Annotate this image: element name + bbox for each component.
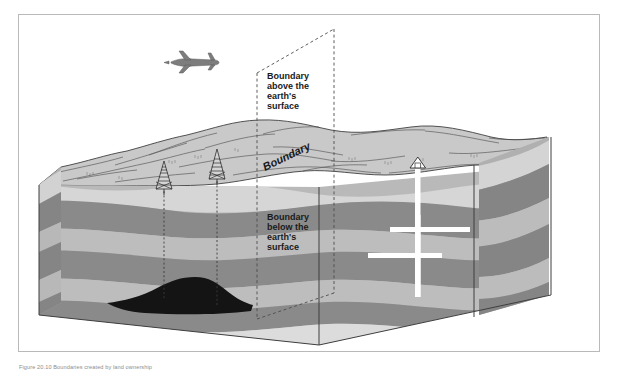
svg-text:earth's: earth's: [267, 91, 296, 101]
svg-text:above the: above the: [267, 81, 309, 91]
figure-frame: Boundary Boundary above the earth's surf…: [18, 14, 600, 352]
svg-text:earth's: earth's: [267, 232, 296, 242]
svg-text:Boundary: Boundary: [267, 212, 309, 222]
svg-text:below the: below the: [267, 222, 309, 232]
svg-text:surface: surface: [267, 101, 299, 111]
airplane-icon: [164, 51, 219, 73]
label-boundary-above: Boundary above the earth's surface: [267, 71, 309, 111]
block-diagram: Boundary Boundary above the earth's surf…: [19, 15, 599, 351]
svg-text:surface: surface: [267, 242, 299, 252]
figure-caption: Figure 20.10 Boundaries created by land …: [19, 364, 152, 370]
svg-text:Boundary: Boundary: [267, 71, 309, 81]
